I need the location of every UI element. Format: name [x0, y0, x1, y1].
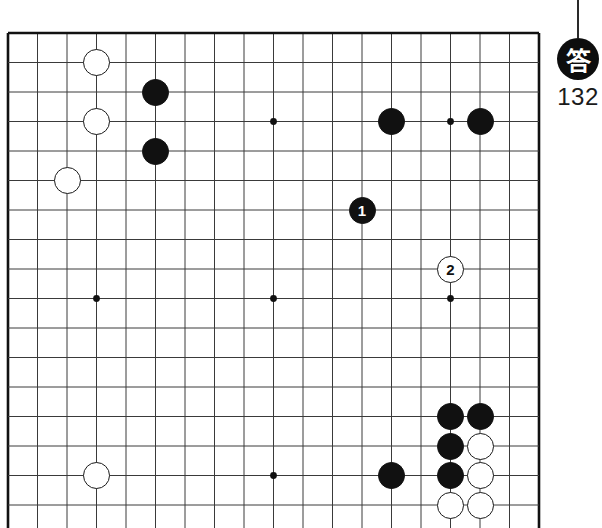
star-point [270, 118, 277, 125]
star-point [447, 118, 454, 125]
move-stone-black-1: 1 [349, 197, 376, 224]
stone-white [83, 108, 110, 135]
stone-black [378, 462, 405, 489]
stone-black [437, 403, 464, 430]
stone-black [142, 79, 169, 106]
star-point [270, 295, 277, 302]
stone-black [437, 433, 464, 460]
stone-black [142, 138, 169, 165]
stone-white [467, 433, 494, 460]
stone-white [467, 492, 494, 519]
answer-symbol-icon: 答 [557, 38, 599, 80]
go-board-grid [0, 0, 546, 528]
go-board-container: 12 [0, 0, 546, 528]
move-stone-white-2: 2 [437, 256, 464, 283]
stone-white [83, 49, 110, 76]
stone-black [467, 108, 494, 135]
stone-black [467, 403, 494, 430]
stone-white [437, 492, 464, 519]
stone-black [378, 108, 405, 135]
answer-badge: 答 132 [550, 0, 602, 111]
stone-black [437, 462, 464, 489]
star-point [93, 295, 100, 302]
stone-white [83, 462, 110, 489]
stone-white [54, 167, 81, 194]
answer-number: 132 [557, 83, 599, 111]
stone-move-number: 1 [358, 203, 366, 218]
badge-stem-line [577, 0, 579, 38]
star-point [447, 295, 454, 302]
star-point [270, 472, 277, 479]
stone-white [467, 462, 494, 489]
stone-move-number: 2 [446, 262, 454, 277]
